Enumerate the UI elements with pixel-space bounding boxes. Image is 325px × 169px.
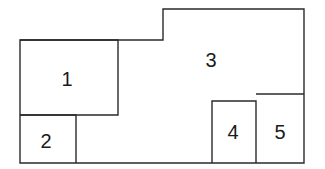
region-5-label: 5	[274, 121, 285, 143]
region-3-label: 3	[205, 49, 216, 71]
region-1-label: 1	[61, 68, 72, 90]
region-2-label: 2	[40, 130, 51, 152]
region-4-label: 4	[227, 121, 238, 143]
region-diagram: 1 2 3 4 5	[0, 0, 325, 169]
